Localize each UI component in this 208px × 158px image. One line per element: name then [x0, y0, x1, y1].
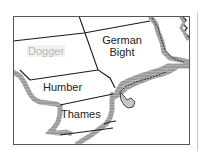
region-label-dogger[interactable]: Dogger [27, 45, 65, 57]
region-label-humber[interactable]: Humber [43, 81, 82, 93]
right-divider [197, 12, 198, 151]
region-label-thames[interactable]: Thames [61, 108, 101, 120]
region-label-german-bight[interactable]: German Bight [99, 34, 145, 58]
german-bight-line1: German [99, 34, 145, 46]
shipping-forecast-map [0, 0, 208, 158]
continental-coast [116, 16, 190, 108]
german-bight-line2: Bight [99, 46, 145, 58]
